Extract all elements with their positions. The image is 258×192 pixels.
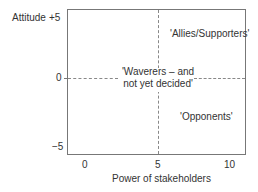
allies-label: 'Allies/Supporters' bbox=[170, 28, 249, 40]
opponents-label: 'Opponents' bbox=[180, 111, 233, 123]
x-axis-title: Power of stakeholders bbox=[112, 173, 211, 185]
x-tick-5: 5 bbox=[155, 159, 161, 171]
y-axis-title: Attitude bbox=[12, 12, 46, 24]
y-zero-tick bbox=[64, 78, 68, 79]
waverers-line1: 'Waverers – and bbox=[120, 66, 196, 78]
y-tick-top: +5 bbox=[49, 12, 60, 24]
x-tick-0: 0 bbox=[82, 159, 88, 171]
y-tick-bottom: −5 bbox=[52, 141, 63, 153]
y-tick-zero: 0 bbox=[56, 72, 62, 84]
horizontal-divider-right bbox=[194, 78, 245, 79]
horizontal-divider-left bbox=[68, 78, 118, 79]
x-tick-10: 10 bbox=[224, 159, 235, 171]
waverers-label: 'Waverers – and not yet decided' bbox=[120, 66, 196, 90]
waverers-line2: not yet decided' bbox=[120, 78, 196, 90]
